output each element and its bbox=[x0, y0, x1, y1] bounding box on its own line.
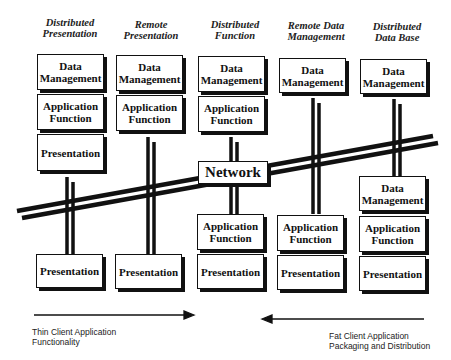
title-line: Presentation bbox=[111, 30, 191, 41]
box-application-function: Application Function bbox=[277, 215, 344, 251]
box-presentation: Presentation bbox=[197, 254, 264, 289]
title-line: Distributed bbox=[30, 17, 110, 28]
column-title-distributed-presentation: Distributed Presentation bbox=[30, 17, 110, 39]
box-presentation: Presentation bbox=[359, 256, 426, 291]
title-line: Distributed bbox=[357, 21, 437, 32]
title-line: Data Base bbox=[357, 32, 437, 43]
box-application-function: Application Function bbox=[198, 96, 265, 132]
title-line: Remote bbox=[111, 19, 191, 30]
caption-line: Thin Client Application bbox=[32, 327, 116, 337]
box-data-management: Data Management bbox=[198, 56, 265, 92]
network-label: Network bbox=[198, 161, 268, 184]
box-data-management: Data Management bbox=[359, 176, 426, 211]
box-data-management: Data Management bbox=[360, 59, 427, 94]
title-line: Function bbox=[195, 30, 275, 41]
caption-line: Packaging and Distribution bbox=[329, 341, 430, 351]
arrow-thin-client bbox=[34, 311, 194, 319]
arrow-fat-client bbox=[262, 315, 424, 323]
column-title-distributed-data-base: Distributed Data Base bbox=[357, 21, 437, 43]
box-presentation: Presentation bbox=[37, 134, 104, 171]
box-presentation: Presentation bbox=[36, 254, 103, 288]
title-line: Presentation bbox=[30, 28, 110, 39]
box-data-management: Data Management bbox=[37, 54, 104, 90]
box-presentation: Presentation bbox=[277, 255, 344, 290]
box-data-management: Data Management bbox=[279, 58, 346, 93]
title-line: Distributed bbox=[195, 19, 275, 30]
column-title-remote-data-management: Remote Data Management bbox=[276, 20, 356, 42]
title-line: Management bbox=[276, 31, 356, 42]
caption-thin-client: Thin Client Application Functionality bbox=[32, 327, 116, 347]
column-title-distributed-function: Distributed Function bbox=[195, 19, 275, 41]
caption-line: Functionality bbox=[32, 337, 116, 347]
box-application-function: Application Function bbox=[359, 216, 426, 252]
box-data-management: Data Management bbox=[116, 55, 183, 91]
column-title-remote-presentation: Remote Presentation bbox=[111, 19, 191, 41]
title-line: Remote Data bbox=[276, 20, 356, 31]
caption-line: Fat Client Application bbox=[329, 331, 430, 341]
box-application-function: Application Function bbox=[37, 94, 104, 130]
box-presentation: Presentation bbox=[115, 254, 182, 289]
box-application-function: Application Function bbox=[116, 95, 183, 131]
box-application-function: Application Function bbox=[197, 214, 264, 250]
caption-fat-client: Fat Client Application Packaging and Dis… bbox=[329, 331, 430, 351]
